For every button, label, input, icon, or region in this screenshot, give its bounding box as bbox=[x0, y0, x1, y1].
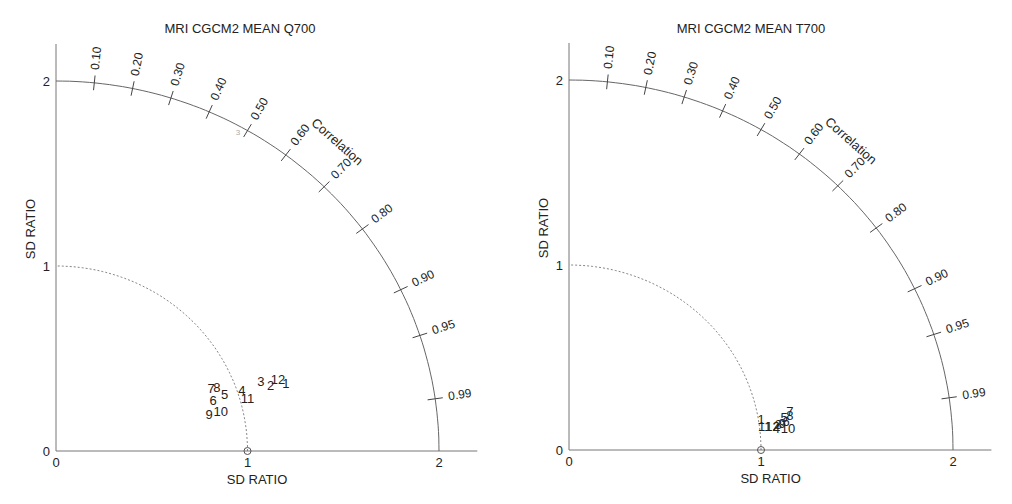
correlation-tick-label: 0.20 bbox=[128, 51, 146, 77]
data-point-label: 11 bbox=[241, 391, 255, 406]
correlation-tick-label: 0.50 bbox=[247, 95, 271, 123]
correlation-tick bbox=[757, 123, 765, 136]
x-tick-label: 0 bbox=[565, 454, 572, 469]
taylor-diagram-q700: MRI CGCM2 MEAN Q700012012SD RATIOSD RATI… bbox=[0, 0, 506, 504]
correlation-tick-label: 0.99 bbox=[447, 386, 472, 403]
stray-mark: 3 bbox=[236, 128, 241, 137]
correlation-tick-label: 0.50 bbox=[761, 94, 785, 122]
y-tick-label: 0 bbox=[556, 443, 563, 458]
x-axis-label: SD RATIO bbox=[740, 471, 800, 486]
data-point-label: 10 bbox=[213, 404, 227, 419]
correlation-tick-label: 0.80 bbox=[882, 200, 909, 225]
correlation-tick-label: 0.90 bbox=[923, 266, 950, 289]
x-tick-label: 2 bbox=[435, 455, 442, 470]
x-tick-label: 0 bbox=[52, 455, 59, 470]
chart-svg: MRI CGCM2 MEAN Q700012012SD RATIOSD RATI… bbox=[0, 0, 506, 504]
x-tick-label: 1 bbox=[757, 454, 764, 469]
correlation-tick-label: 0.40 bbox=[721, 74, 743, 101]
reference-std-arc bbox=[56, 266, 248, 451]
y-tick-label: 2 bbox=[556, 73, 563, 88]
correlation-tick bbox=[795, 148, 804, 160]
data-point-label: 12 bbox=[271, 372, 285, 387]
correlation-tick bbox=[394, 286, 408, 292]
y-tick-label: 2 bbox=[43, 74, 50, 89]
correlation-tick-label: 0.95 bbox=[944, 316, 971, 337]
data-point-label: 9 bbox=[206, 407, 213, 422]
y-tick-label: 0 bbox=[43, 444, 50, 459]
data-point-label: 12 bbox=[765, 419, 779, 434]
correlation-tick-label: 0.10 bbox=[88, 46, 104, 71]
y-axis-label: SD RATIO bbox=[23, 199, 38, 259]
y-tick-label: 1 bbox=[556, 258, 563, 273]
correlation-tick-label: 0.20 bbox=[641, 50, 659, 76]
x-axis-label: SD RATIO bbox=[227, 472, 287, 487]
correlation-tick bbox=[870, 224, 882, 233]
y-axis-label: SD RATIO bbox=[536, 198, 551, 258]
correlation-tick-label: 0.30 bbox=[681, 60, 701, 87]
correlation-tick-label: 0.95 bbox=[430, 317, 457, 338]
taylor-diagram-t700: MRI CGCM2 MEAN T700012012SD RATIOSD RATI… bbox=[506, 0, 1012, 504]
data-point-label: 8 bbox=[213, 380, 220, 395]
correlation-tick-label: 0.90 bbox=[409, 267, 436, 290]
data-point-label: 5 bbox=[221, 387, 228, 402]
y-tick-label: 1 bbox=[43, 259, 50, 274]
correlation-tick-label: 0.10 bbox=[601, 45, 617, 70]
correlation-tick bbox=[413, 333, 428, 338]
correlation-tick-label: 0.30 bbox=[167, 61, 187, 88]
correlation-tick bbox=[720, 104, 726, 118]
chart-svg: MRI CGCM2 MEAN T700012012SD RATIOSD RATI… bbox=[506, 0, 1012, 504]
x-tick-label: 2 bbox=[949, 454, 956, 469]
x-tick-label: 1 bbox=[244, 455, 251, 470]
correlation-tick bbox=[281, 149, 290, 161]
data-point-label: 10 bbox=[781, 421, 795, 436]
correlation-tick-label: 0.99 bbox=[961, 385, 986, 402]
correlation-tick bbox=[206, 105, 212, 119]
correlation-tick bbox=[244, 124, 252, 137]
correlation-tick-label: 0.80 bbox=[368, 201, 395, 226]
chart-title: MRI CGCM2 MEAN T700 bbox=[677, 21, 826, 36]
correlation-tick bbox=[908, 285, 922, 291]
outer-correlation-arc bbox=[569, 80, 953, 450]
correlation-tick bbox=[356, 225, 368, 234]
chart-title: MRI CGCM2 MEAN Q700 bbox=[165, 21, 316, 36]
correlation-axis-label: Correlation bbox=[308, 115, 366, 168]
data-point-label: 3 bbox=[257, 374, 264, 389]
reference-std-arc bbox=[569, 265, 761, 450]
correlation-tick-label: 0.40 bbox=[207, 75, 229, 102]
correlation-axis-label: Correlation bbox=[822, 114, 880, 167]
